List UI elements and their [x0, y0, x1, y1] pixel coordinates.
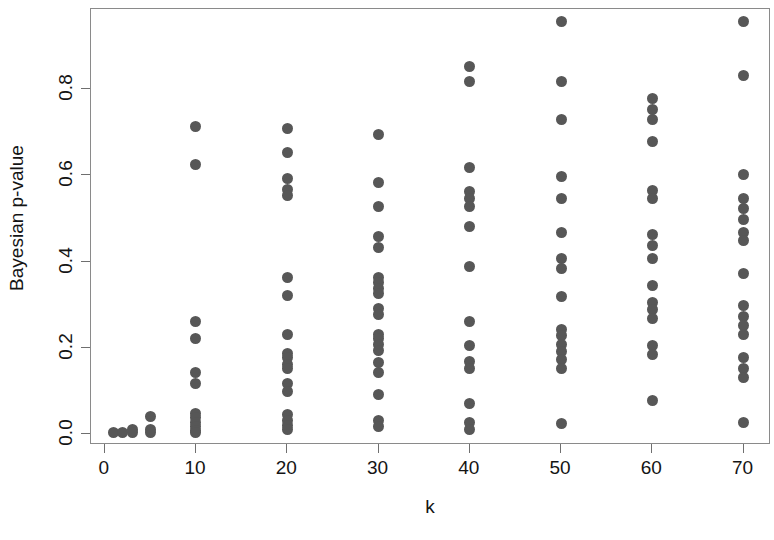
- y-tick-label-text: 0.0: [55, 419, 74, 445]
- y-axis-tick: [81, 174, 90, 175]
- scatter-point: [647, 193, 658, 204]
- scatter-point: [190, 121, 201, 132]
- scatter-point: [738, 300, 749, 311]
- scatter-point: [464, 398, 475, 409]
- scatter-point: [556, 263, 567, 274]
- y-tick-label: 0.2: [0, 337, 78, 356]
- scatter-point: [190, 159, 201, 170]
- y-tick-label: 0.4: [0, 251, 78, 270]
- scatter-point: [190, 427, 201, 438]
- scatter-point: [190, 333, 201, 344]
- scatter-point: [647, 349, 658, 360]
- x-axis-tick: [560, 444, 561, 453]
- scatter-point: [464, 340, 475, 351]
- scatter-point: [282, 272, 293, 283]
- scatter-point: [373, 345, 384, 356]
- y-axis-title: Bayesian p-value: [2, 0, 32, 436]
- scatter-point: [282, 424, 293, 435]
- x-axis-tick: [378, 444, 379, 453]
- scatter-point: [190, 316, 201, 327]
- scatter-point: [373, 309, 384, 320]
- scatter-point: [464, 221, 475, 232]
- plot-area: [90, 8, 770, 444]
- scatter-point: [282, 123, 293, 134]
- x-tick-label: 70: [713, 458, 773, 477]
- scatter-point: [647, 253, 658, 264]
- scatter-point: [738, 268, 749, 279]
- x-tick-label: 50: [530, 458, 590, 477]
- scatter-point: [145, 411, 156, 422]
- y-axis-tick: [81, 347, 90, 348]
- x-tick-label: 30: [348, 458, 408, 477]
- scatter-point: [647, 240, 658, 251]
- x-axis-tick: [195, 444, 196, 453]
- y-tick-label: 0.8: [0, 78, 78, 97]
- x-tick-label: 20: [256, 458, 316, 477]
- scatter-point: [556, 16, 567, 27]
- scatter-point: [373, 242, 384, 253]
- scatter-point: [373, 367, 384, 378]
- scatter-point: [647, 136, 658, 147]
- scatter-point: [282, 363, 293, 374]
- scatter-point: [556, 114, 567, 125]
- scatter-point: [190, 378, 201, 389]
- scatter-point: [127, 427, 138, 438]
- scatter-point: [145, 427, 156, 438]
- scatter-point: [373, 421, 384, 432]
- scatter-point: [647, 280, 658, 291]
- x-axis-title-label: k: [425, 496, 435, 517]
- y-axis-tick: [81, 433, 90, 434]
- scatter-point: [464, 76, 475, 87]
- scatter-point: [556, 76, 567, 87]
- y-tick-label-text: 0.8: [55, 74, 74, 100]
- x-axis-tick: [104, 444, 105, 453]
- y-axis-tick: [81, 88, 90, 89]
- scatter-point: [556, 227, 567, 238]
- scatter-point: [738, 329, 749, 340]
- x-axis-title: k: [90, 496, 770, 518]
- scatter-point: [282, 190, 293, 201]
- scatter-point: [282, 290, 293, 301]
- scatter-point: [738, 417, 749, 428]
- scatter-point: [464, 201, 475, 212]
- scatter-point: [556, 291, 567, 302]
- scatter-point: [373, 177, 384, 188]
- x-axis-tick: [469, 444, 470, 453]
- scatter-point: [464, 162, 475, 173]
- y-tick-label: 0.6: [0, 164, 78, 183]
- scatter-point: [373, 201, 384, 212]
- scatter-point: [647, 395, 658, 406]
- scatter-point: [647, 93, 658, 104]
- y-tick-label: 0.0: [0, 423, 78, 442]
- y-tick-label-text: 0.6: [55, 160, 74, 186]
- scatter-point: [556, 363, 567, 374]
- scatter-point: [738, 16, 749, 27]
- scatter-point: [556, 253, 567, 264]
- scatter-point: [282, 329, 293, 340]
- scatter-point: [647, 229, 658, 240]
- scatter-point: [282, 147, 293, 158]
- scatter-point: [647, 104, 658, 115]
- scatter-point: [282, 173, 293, 184]
- scatter-point: [738, 235, 749, 246]
- scatter-point: [556, 193, 567, 204]
- x-axis-tick: [286, 444, 287, 453]
- x-axis-tick: [743, 444, 744, 453]
- scatter-point: [464, 61, 475, 72]
- scatter-points-layer: [91, 9, 769, 443]
- scatter-point: [373, 288, 384, 299]
- scatter-point: [647, 114, 658, 125]
- scatter-point: [373, 231, 384, 242]
- chart-page: Bayesian p-value 0.00.20.40.60.8 0102030…: [0, 0, 774, 540]
- x-tick-label: 40: [439, 458, 499, 477]
- y-axis-tick: [81, 261, 90, 262]
- scatter-point: [738, 70, 749, 81]
- x-tick-label: 0: [74, 458, 134, 477]
- scatter-point: [190, 367, 201, 378]
- scatter-point: [556, 171, 567, 182]
- scatter-point: [464, 363, 475, 374]
- scatter-point: [373, 129, 384, 140]
- x-tick-label: 10: [165, 458, 225, 477]
- y-tick-label-text: 0.2: [55, 333, 74, 359]
- scatter-point: [647, 313, 658, 324]
